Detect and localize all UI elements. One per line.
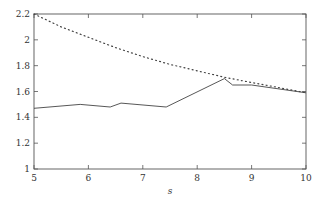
y-tick-label: 1.8 bbox=[16, 61, 31, 71]
x-tick-label: 6 bbox=[86, 173, 92, 183]
plot-border bbox=[34, 14, 306, 169]
x-tick-label: 7 bbox=[140, 173, 146, 183]
y-tick-label: 1.6 bbox=[16, 87, 31, 97]
x-tick-label: 8 bbox=[194, 173, 200, 183]
x-tick-label: 10 bbox=[300, 173, 312, 183]
line-chart: 5678910 11.21.41.61.822.2 s bbox=[0, 0, 323, 201]
y-tick-label: 2 bbox=[24, 35, 30, 45]
series-dotted-line bbox=[34, 14, 306, 93]
y-axis: 11.21.41.61.822.2 bbox=[16, 9, 306, 174]
x-axis: 5678910 bbox=[31, 14, 312, 183]
series-solid-line bbox=[34, 79, 306, 109]
y-tick-label: 1.4 bbox=[16, 112, 31, 122]
x-axis-title: s bbox=[168, 186, 173, 196]
y-tick-label: 1 bbox=[24, 164, 30, 174]
y-tick-label: 1.2 bbox=[16, 138, 30, 148]
x-tick-label: 5 bbox=[31, 173, 37, 183]
y-tick-label: 2.2 bbox=[16, 9, 30, 19]
plot-frame bbox=[34, 14, 306, 169]
x-tick-label: 9 bbox=[249, 173, 255, 183]
series-group bbox=[34, 14, 306, 108]
